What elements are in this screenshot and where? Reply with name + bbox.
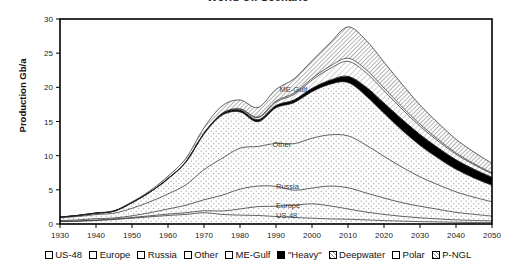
legend-swatch-open bbox=[89, 251, 97, 259]
x-tick-label: 2050 bbox=[483, 231, 501, 240]
y-tick-label: 5 bbox=[49, 186, 54, 195]
legend-swatch-open bbox=[225, 251, 233, 259]
x-tick-label: 2000 bbox=[303, 231, 321, 240]
legend-swatch-solid-black bbox=[277, 251, 285, 259]
y-tick-label: 30 bbox=[44, 15, 53, 24]
x-tick-label: 2030 bbox=[411, 231, 429, 240]
legend-label: "Heavy" bbox=[288, 250, 322, 260]
inline-label-us-48: US-48 bbox=[276, 211, 297, 220]
x-tick-label: 2020 bbox=[375, 231, 393, 240]
legend-item-us-48[interactable]: US-48 bbox=[45, 250, 82, 260]
legend-item-other[interactable]: Other bbox=[184, 250, 218, 260]
legend-swatch-open bbox=[45, 251, 53, 259]
legend-item-russia[interactable]: Russia bbox=[137, 250, 177, 260]
legend-item-p-ngl[interactable]: P-NGL bbox=[432, 250, 472, 260]
legend-item-deepwater[interactable]: Deepwater bbox=[329, 250, 385, 260]
inline-label-other: Other bbox=[272, 140, 291, 149]
legend-item-europe[interactable]: Europe bbox=[89, 250, 130, 260]
x-tick-label: 1970 bbox=[195, 231, 213, 240]
y-tick-label: 15 bbox=[44, 118, 53, 127]
inline-label-me-gulf: ME-Gulf bbox=[280, 85, 308, 94]
inline-label-russia: Russia bbox=[276, 182, 300, 191]
x-tick-label: 1950 bbox=[123, 231, 141, 240]
legend-item-polar[interactable]: Polar bbox=[392, 250, 425, 260]
legend-swatch-hatch-dense bbox=[432, 251, 440, 259]
legend-item-me-gulf[interactable]: ME-Gulf bbox=[225, 250, 270, 260]
legend-swatch-open bbox=[392, 251, 400, 259]
legend-item-heavy[interactable]: "Heavy" bbox=[277, 250, 321, 260]
y-tick-label: 25 bbox=[44, 49, 53, 58]
y-axis-ticks: 051015202530 bbox=[44, 15, 60, 229]
chart-legend: US-48EuropeRussiaOtherME-Gulf"Heavy"Deep… bbox=[0, 250, 516, 260]
legend-label: Europe bbox=[100, 250, 131, 260]
x-tick-label: 1960 bbox=[159, 231, 177, 240]
legend-swatch-open bbox=[184, 251, 192, 259]
inline-label-europe: Europe bbox=[276, 201, 300, 210]
legend-label: US-48 bbox=[55, 250, 82, 260]
y-tick-label: 10 bbox=[44, 152, 53, 161]
y-tick-label: 0 bbox=[49, 220, 54, 229]
x-tick-label: 1940 bbox=[87, 231, 105, 240]
legend-swatch-hatch-dense bbox=[329, 251, 337, 259]
x-tick-label: 2010 bbox=[339, 231, 357, 240]
legend-label: P-NGL bbox=[442, 250, 471, 260]
y-tick-label: 20 bbox=[44, 83, 53, 92]
chart-figure: World Oil Scenario Production Gb/a bbox=[0, 0, 516, 273]
legend-label: Polar bbox=[403, 250, 425, 260]
legend-label: Other bbox=[194, 250, 218, 260]
plot-area: 051015202530 193019401950196019701980199… bbox=[0, 0, 516, 250]
x-tick-label: 1930 bbox=[51, 231, 69, 240]
x-axis-ticks: 1930194019501960197019801990200020102020… bbox=[51, 224, 501, 240]
legend-label: Deepwater bbox=[339, 250, 385, 260]
x-tick-label: 1990 bbox=[267, 231, 285, 240]
x-tick-label: 2040 bbox=[447, 231, 465, 240]
legend-label: ME-Gulf bbox=[236, 250, 271, 260]
x-tick-label: 1980 bbox=[231, 231, 249, 240]
legend-swatch-open bbox=[137, 251, 145, 259]
legend-label: Russia bbox=[148, 250, 177, 260]
